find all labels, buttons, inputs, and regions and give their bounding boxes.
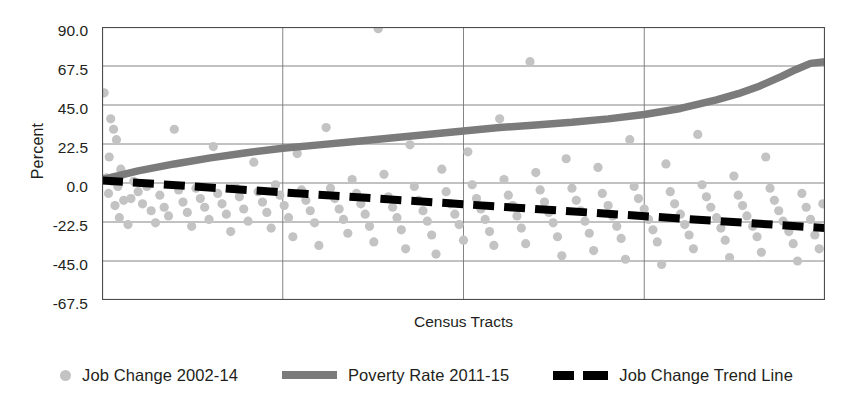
scatter-point (405, 140, 414, 149)
y-tick-label: 22.5 (0, 140, 88, 156)
scatter-point (105, 152, 114, 161)
scatter-point (379, 170, 388, 179)
scatter-point (106, 114, 115, 123)
scatter-point (392, 213, 401, 222)
y-tick-label: -67.5 (0, 296, 88, 312)
scatter-point (170, 125, 179, 134)
y-tick-label: -45.0 (0, 257, 88, 273)
scatter-point (284, 213, 293, 222)
scatter-point (598, 189, 607, 198)
scatter-point (418, 206, 427, 215)
scatter-point (437, 165, 446, 174)
scatter-point (410, 182, 419, 191)
dashed-line-icon (553, 371, 608, 380)
solid-line-icon (282, 371, 337, 379)
scatter-point (604, 201, 613, 210)
scatter-point (621, 255, 630, 264)
plot-area (102, 27, 825, 300)
scatter-point (126, 194, 135, 203)
scatter-point (712, 213, 721, 222)
scatter-point (567, 184, 576, 193)
scatter-point (580, 217, 589, 226)
scatter-point (706, 203, 715, 212)
scatter-point (689, 244, 698, 253)
scatter-point (702, 192, 711, 201)
scatter-point (258, 197, 267, 206)
scatter-point (657, 260, 666, 269)
scatter-point (468, 180, 477, 189)
y-axis-tick-labels: 90.0 67.5 45.0 22.5 0.0 -22.5 -45.0 -67.… (0, 0, 96, 399)
scatter-point (774, 206, 783, 215)
scatter-point (721, 236, 730, 245)
scatter-point (531, 168, 540, 177)
scatter-point (243, 217, 252, 226)
scatter-point (593, 163, 602, 172)
scatter-point (104, 189, 113, 198)
legend-label: Job Change Trend Line (619, 366, 793, 385)
scatter-point (322, 123, 331, 132)
scatter-point (138, 199, 147, 208)
scatter-point (793, 256, 802, 265)
x-axis-title: Census Tracts (102, 313, 825, 331)
scatter-point (178, 197, 187, 206)
scatter-point (761, 152, 770, 161)
scatter-point (495, 114, 504, 123)
y-tick-label: 0.0 (0, 179, 88, 195)
scatter-point (288, 232, 297, 241)
scatter-point (536, 185, 545, 194)
scatter-point (612, 222, 621, 231)
scatter-point (738, 201, 747, 210)
legend-item-job-change: Job Change 2002-14 (60, 366, 238, 385)
scatter-point (806, 215, 815, 224)
y-tick-label: -22.5 (0, 218, 88, 234)
scatter-point (112, 135, 121, 144)
scatter-point (489, 241, 498, 250)
scatter-point (742, 211, 751, 220)
scatter-point (388, 203, 397, 212)
scatter-point (757, 248, 766, 257)
chart-figure: Percent 90.0 67.5 45.0 22.5 0.0 -22.5 -4… (0, 0, 853, 399)
scatter-point (549, 218, 558, 227)
y-tick-label: 90.0 (0, 23, 88, 39)
scatter-point (200, 203, 209, 212)
scatter-point (815, 244, 824, 253)
scatter-point (348, 175, 357, 184)
y-tick-label: 45.0 (0, 101, 88, 117)
scatter-point (734, 191, 743, 200)
scatter-point (147, 206, 156, 215)
scatter-point (369, 237, 378, 246)
scatter-point (553, 232, 562, 241)
scatter-point (540, 197, 549, 206)
scatter-point (226, 227, 235, 236)
scatter-point (431, 249, 440, 258)
scatter-point (697, 180, 706, 189)
scatter-point (455, 220, 464, 229)
scatter-point (151, 218, 160, 227)
scatter-point (648, 225, 657, 234)
scatter-point (339, 215, 348, 224)
scatter-point (262, 208, 271, 217)
scatter-point (204, 215, 213, 224)
scatter-point (310, 218, 319, 227)
scatter-point (160, 203, 169, 212)
legend-label: Job Change 2002-14 (82, 366, 238, 385)
scatter-point (517, 223, 526, 232)
legend-label: Poverty Rate 2011-15 (348, 366, 509, 385)
scatter-point (589, 246, 598, 255)
scatter-point (661, 159, 670, 168)
scatter-point (634, 194, 643, 203)
scatter-point (361, 210, 370, 219)
scatter-point (450, 210, 459, 219)
scatter-point (343, 229, 352, 238)
chart-legend: Job Change 2002-14 Poverty Rate 2011-15 … (0, 358, 853, 392)
scatter-point (109, 125, 118, 134)
scatter-point (485, 227, 494, 236)
scatter-point (459, 236, 468, 245)
scatter-point (810, 230, 819, 239)
scatter-point (401, 244, 410, 253)
scatter-point (670, 199, 679, 208)
scatter-point (335, 204, 344, 213)
scatter-point (365, 222, 374, 231)
scatter-point (427, 230, 436, 239)
scatter-point (280, 201, 289, 210)
